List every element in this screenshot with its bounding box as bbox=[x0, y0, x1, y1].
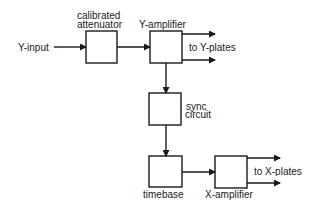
x-amplifier-label: X-amplifier bbox=[205, 190, 253, 199]
timebase-label: timebase bbox=[143, 190, 184, 199]
sync-circuit-box bbox=[149, 93, 181, 125]
sync-label-line2: circuit bbox=[185, 110, 211, 119]
attenuator-label-line2: attenuator bbox=[77, 20, 122, 29]
attenuator-box bbox=[86, 31, 117, 63]
diagram-canvas: calibrated attenuator Y-amplifier sync c… bbox=[0, 0, 311, 209]
y-amplifier-label: Y-amplifier bbox=[139, 20, 186, 29]
to-y-plates-label: to Y-plates bbox=[189, 43, 236, 52]
diagram-lines bbox=[0, 0, 311, 209]
x-amplifier-box bbox=[215, 156, 247, 188]
to-x-plates-label: to X-plates bbox=[254, 167, 311, 176]
timebase-box bbox=[149, 156, 182, 187]
y-input-label: Y-input bbox=[18, 43, 49, 52]
y-amplifier-box bbox=[150, 31, 182, 63]
